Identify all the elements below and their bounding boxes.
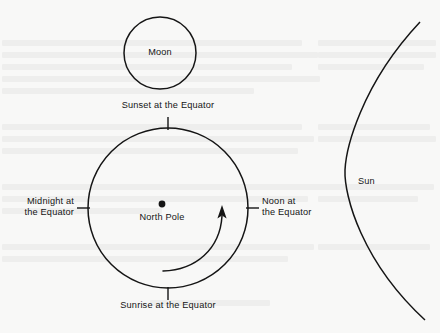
diagram-canvas: [0, 0, 440, 333]
sun-label: Sun: [358, 176, 398, 187]
noon-label: Noon atthe Equator: [262, 196, 342, 219]
north-pole-label: North Pole: [122, 212, 202, 223]
midnight-label: Midnight atthe Equator: [0, 196, 74, 219]
earth-rotation-arrow: [163, 216, 222, 271]
moon-label: Moon: [130, 47, 190, 58]
sun-arc: [345, 22, 425, 320]
sunrise-label: Sunrise at the Equator: [88, 300, 248, 311]
sunset-label: Sunset at the Equator: [88, 100, 248, 111]
earth-circle: [88, 128, 248, 288]
diagram-page: Moon Sunset at the Equator Midnight atth…: [0, 0, 440, 333]
north-pole-dot: [159, 201, 166, 208]
